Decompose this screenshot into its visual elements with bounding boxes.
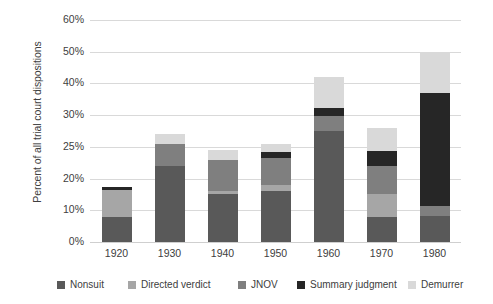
x-axis-tick-1940: 1940 [193, 247, 253, 259]
bar-segment-1920-nonsuit[interactable] [102, 217, 132, 242]
y-axis-tick-10: 10% [48, 203, 84, 215]
legend-item-demurrer[interactable]: Demurrer [408, 279, 463, 290]
legend-item-nonsuit[interactable]: Nonsuit [57, 279, 104, 290]
bar-segment-1960-demurrer[interactable] [314, 77, 344, 107]
bar-segment-1970-jnov[interactable] [367, 166, 397, 195]
bar-segment-1940-jnov[interactable] [208, 160, 238, 192]
bar-segment-1980-nonsuit[interactable] [420, 216, 450, 242]
bar-1970[interactable] [367, 20, 397, 242]
bar-segment-1930-demurrer[interactable] [155, 134, 185, 144]
bar-1980[interactable] [420, 20, 450, 242]
legend-item-directed-verdict[interactable]: Directed verdict [128, 279, 210, 290]
bar-segment-1930-nonsuit[interactable] [155, 166, 185, 242]
y-axis-title: Percent of all trial court dispositions [31, 7, 43, 237]
chart-container: Percent of all trial court dispositions … [0, 0, 493, 304]
bar-segment-1920-directed-verdict[interactable] [102, 190, 132, 216]
y-axis-tick-0: 0% [48, 235, 84, 247]
legend-swatch-icon [57, 281, 65, 289]
bar-segment-1950-directed-verdict[interactable] [261, 185, 291, 191]
bar-segment-1970-directed-verdict[interactable] [367, 194, 397, 217]
bar-segment-1940-directed-verdict[interactable] [208, 191, 238, 194]
bar-segment-1950-jnov[interactable] [261, 158, 291, 185]
legend-swatch-icon [238, 281, 246, 289]
bar-1940[interactable] [208, 20, 238, 242]
bar-1950[interactable] [261, 20, 291, 242]
y-axis-tick-20: 20% [48, 172, 84, 184]
legend-label: Nonsuit [70, 279, 104, 290]
legend-label: Demurrer [421, 279, 463, 290]
y-axis-tick-30: 30% [48, 108, 84, 120]
bar-1930[interactable] [155, 20, 185, 242]
legend-swatch-icon [408, 281, 416, 289]
x-axis-tick-1930: 1930 [140, 247, 200, 259]
y-axis-tick-40: 40% [48, 76, 84, 88]
bar-segment-1970-summary-judgment[interactable] [367, 151, 397, 166]
bar-segment-1970-demurrer[interactable] [367, 128, 397, 151]
bar-1960[interactable] [314, 20, 344, 242]
legend-swatch-icon [128, 281, 136, 289]
bar-1920[interactable] [102, 20, 132, 242]
x-axis-tick-1960: 1960 [299, 247, 359, 259]
legend-label: JNOV [251, 279, 278, 290]
x-axis-tick-1980: 1980 [405, 247, 465, 259]
bar-segment-1970-nonsuit[interactable] [367, 217, 397, 242]
legend-label: Summary judgment [310, 279, 397, 290]
bar-segment-1940-nonsuit[interactable] [208, 194, 238, 242]
x-axis-tick-1950: 1950 [246, 247, 306, 259]
bar-segment-1950-summary-judgment[interactable] [261, 152, 291, 158]
x-axis-tick-1970: 1970 [352, 247, 412, 259]
bar-segment-1950-demurrer[interactable] [261, 144, 291, 152]
plot-area [90, 20, 461, 242]
bar-segment-1980-jnov[interactable] [420, 206, 450, 216]
legend-label: Directed verdict [141, 279, 210, 290]
chart-legend: NonsuitDirected verdictJNOVSummary judgm… [0, 279, 493, 297]
bar-segment-1950-nonsuit[interactable] [261, 191, 291, 242]
bar-segment-1960-summary-judgment[interactable] [314, 108, 344, 117]
x-axis-tick-1920: 1920 [87, 247, 147, 259]
bar-segment-1980-summary-judgment[interactable] [420, 93, 450, 206]
y-axis-tick-25: 25% [48, 140, 84, 152]
legend-item-summary-judgment[interactable]: Summary judgment [297, 279, 397, 290]
bar-segment-1980-demurrer[interactable] [420, 52, 450, 93]
bar-segment-1960-jnov[interactable] [314, 116, 344, 131]
bar-segment-1940-demurrer[interactable] [208, 150, 238, 160]
legend-item-jnov[interactable]: JNOV [238, 279, 278, 290]
legend-swatch-icon [297, 281, 305, 289]
bar-segment-1930-jnov[interactable] [155, 144, 185, 166]
y-axis-tick-60: 60% [48, 13, 84, 25]
bar-segment-1960-nonsuit[interactable] [314, 131, 344, 242]
y-axis-tick-50: 50% [48, 45, 84, 57]
x-axis-line [90, 242, 461, 243]
bar-segment-1920-summary-judgment[interactable] [102, 187, 132, 190]
